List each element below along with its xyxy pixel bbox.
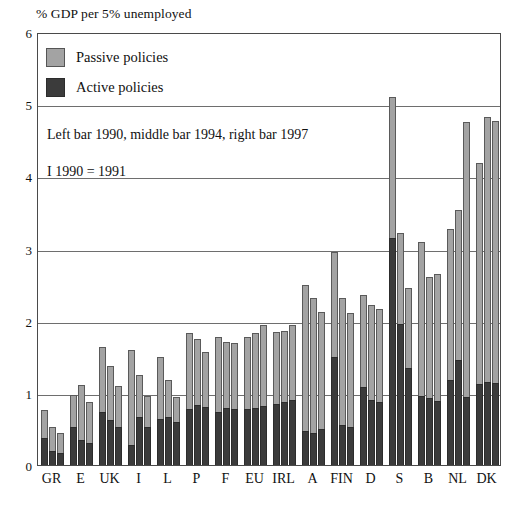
bar-fin-1997 bbox=[347, 313, 354, 465]
bar-s-1994 bbox=[397, 233, 404, 465]
bar-active-segment bbox=[49, 451, 56, 465]
x-tick-label-l: L bbox=[153, 470, 182, 488]
legend-label-active: Active policies bbox=[76, 79, 163, 95]
bar-f-1994 bbox=[223, 342, 230, 465]
bar-active-segment bbox=[215, 412, 222, 465]
bar-active-segment bbox=[492, 383, 499, 465]
bar-active-segment bbox=[447, 380, 454, 465]
bar-uk-1997 bbox=[115, 386, 122, 465]
bar-active-segment bbox=[484, 382, 491, 465]
bar-active-segment bbox=[476, 384, 483, 465]
bar-active-segment bbox=[347, 427, 354, 465]
bar-a-1997 bbox=[318, 312, 325, 465]
y-axis-labels: 0123456 bbox=[0, 33, 32, 466]
y-tick-label: 3 bbox=[6, 244, 32, 257]
bar-active-segment bbox=[281, 402, 288, 466]
bar-active-segment bbox=[463, 397, 470, 465]
x-tick-label-b: B bbox=[414, 470, 443, 488]
bar-d-1994 bbox=[368, 305, 375, 465]
bar-active-segment bbox=[289, 400, 296, 465]
bar-active-segment bbox=[376, 402, 383, 466]
bar-l-1994 bbox=[165, 380, 172, 465]
x-tick-label-eu: EU bbox=[240, 470, 269, 488]
bar-active-segment bbox=[231, 409, 238, 465]
bar-a-1994 bbox=[310, 298, 317, 465]
bar-active-segment bbox=[244, 409, 251, 465]
bar-p-1990 bbox=[186, 333, 193, 465]
bar-gr-1997 bbox=[57, 433, 64, 465]
x-tick-label-p: P bbox=[182, 470, 211, 488]
legend-swatch-passive-icon bbox=[46, 48, 65, 67]
bar-active-segment bbox=[331, 357, 338, 465]
bar-gr-1994 bbox=[49, 427, 56, 465]
bar-active-segment bbox=[157, 419, 164, 465]
bar-active-segment bbox=[86, 443, 93, 465]
legend-item-active: Active policies bbox=[46, 73, 346, 101]
bar-active-segment bbox=[202, 407, 209, 465]
bar-gr-1990 bbox=[41, 410, 48, 465]
x-tick-label-s: S bbox=[385, 470, 414, 488]
bar-active-segment bbox=[339, 425, 346, 465]
bar-irl-1994 bbox=[281, 331, 288, 465]
bar-dk-1990 bbox=[476, 163, 483, 465]
bar-d-1997 bbox=[376, 309, 383, 465]
bar-i-1994 bbox=[136, 375, 143, 465]
bar-active-segment bbox=[252, 408, 259, 465]
bar-a-1990 bbox=[302, 285, 309, 465]
y-tick-label: 0 bbox=[6, 460, 32, 473]
bar-active-segment bbox=[107, 420, 114, 465]
bar-i-1997 bbox=[144, 396, 151, 465]
bar-i-1990 bbox=[128, 350, 135, 465]
note-bar-order: Left bar 1990, middle bar 1994, right ba… bbox=[47, 126, 477, 144]
x-tick-label-dk: DK bbox=[472, 470, 501, 488]
bar-b-1997 bbox=[434, 274, 441, 465]
bar-eu-1997 bbox=[260, 325, 267, 465]
bar-uk-1994 bbox=[107, 366, 114, 465]
bar-active-segment bbox=[405, 368, 412, 465]
bar-active-segment bbox=[78, 440, 85, 465]
x-tick-label-irl: IRL bbox=[269, 470, 298, 488]
chart-figure: % GDP per 5% unemployed 0123456 Passive … bbox=[0, 0, 516, 511]
bar-s-1997 bbox=[405, 288, 412, 465]
x-axis-labels: GREUKILPFEUIRLAFINDSBNLDK bbox=[37, 470, 501, 498]
note-italy-year: I 1990 = 1991 bbox=[47, 163, 477, 181]
x-tick-label-f: F bbox=[211, 470, 240, 488]
bar-dk-1994 bbox=[484, 117, 491, 465]
x-tick-label-d: D bbox=[356, 470, 385, 488]
bar-active-segment bbox=[144, 427, 151, 465]
bar-e-1997 bbox=[86, 402, 93, 465]
bar-active-segment bbox=[223, 408, 230, 465]
bar-active-segment bbox=[115, 427, 122, 465]
bar-d-1990 bbox=[360, 295, 367, 465]
bar-active-segment bbox=[302, 431, 309, 465]
bar-active-segment bbox=[136, 417, 143, 465]
bar-b-1990 bbox=[418, 242, 425, 465]
x-tick-label-a: A bbox=[298, 470, 327, 488]
bar-p-1994 bbox=[194, 339, 201, 465]
bar-active-segment bbox=[418, 396, 425, 465]
x-tick-label-gr: GR bbox=[37, 470, 66, 488]
bar-b-1994 bbox=[426, 277, 433, 465]
bar-f-1990 bbox=[215, 337, 222, 465]
bar-nl-1994 bbox=[455, 210, 462, 465]
bar-active-segment bbox=[99, 412, 106, 465]
bar-l-1997 bbox=[173, 397, 180, 465]
bar-uk-1990 bbox=[99, 347, 106, 465]
bar-active-segment bbox=[318, 429, 325, 465]
bar-active-segment bbox=[173, 422, 180, 465]
x-tick-label-e: E bbox=[66, 470, 95, 488]
legend-label-passive: Passive policies bbox=[76, 49, 168, 65]
x-tick-label-uk: UK bbox=[95, 470, 124, 488]
bar-active-segment bbox=[455, 360, 462, 465]
bar-e-1994 bbox=[78, 385, 85, 465]
bar-p-1997 bbox=[202, 352, 209, 465]
y-tick-label: 5 bbox=[6, 99, 32, 112]
bar-f-1997 bbox=[231, 343, 238, 465]
x-tick-label-nl: NL bbox=[443, 470, 472, 488]
bar-active-segment bbox=[194, 405, 201, 465]
bar-nl-1990 bbox=[447, 229, 454, 465]
bar-active-segment bbox=[70, 427, 77, 465]
bar-eu-1994 bbox=[252, 333, 259, 465]
bar-active-segment bbox=[57, 453, 64, 465]
chart-title: % GDP per 5% unemployed bbox=[36, 6, 192, 22]
